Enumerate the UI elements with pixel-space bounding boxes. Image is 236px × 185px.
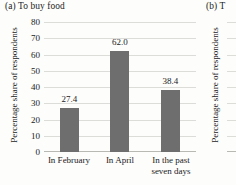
panel-b-x-axis-baseline [227, 151, 236, 152]
y-tick-label-70: 70 [31, 34, 40, 43]
chart-panel-b: (b) T Percentage share of respondents [200, 0, 236, 185]
panel-a-plot-area: 80 70 60 50 40 30 20 10 0 27.4 62.0 3 [44, 22, 196, 152]
bar-in-april[interactable] [110, 51, 129, 152]
bar-value-in-february: 27.4 [61, 94, 77, 104]
y-tick-label-30: 30 [31, 99, 40, 108]
panel-b-gridline-80 [227, 22, 236, 23]
bar-value-in-april: 62.0 [112, 37, 128, 47]
panel-b-gridline-50 [227, 71, 236, 72]
y-tick-label-60: 60 [31, 50, 40, 59]
bar-series: 27.4 62.0 38.4 [44, 22, 196, 152]
x-tick-label-in-april: In April [92, 155, 148, 166]
figure-container: (a) To buy food Percentage share of resp… [0, 0, 236, 185]
x-tick-label-in-february: In February [40, 155, 98, 166]
y-tick-label-80: 80 [31, 18, 40, 27]
panel-a-y-axis-label: Percentage share of respondents [9, 21, 19, 149]
bar-slot-in-the-past-seven-days: 38.4 [145, 22, 196, 152]
chart-panel-a: (a) To buy food Percentage share of resp… [0, 0, 200, 185]
y-tick-label-50: 50 [31, 66, 40, 75]
bar-slot-in-april: 62.0 [95, 22, 146, 152]
panel-a-title: (a) To buy food [5, 1, 65, 11]
panel-b-gridline-10 [227, 136, 236, 137]
panel-b-title: (b) T [206, 1, 225, 11]
bar-in-february[interactable] [60, 108, 79, 153]
y-tick-label-10: 10 [31, 131, 40, 140]
panel-b-gridline-20 [227, 120, 236, 121]
bar-slot-in-february: 27.4 [44, 22, 95, 152]
bar-in-the-past-seven-days[interactable] [161, 90, 180, 152]
y-tick-label-20: 20 [31, 115, 40, 124]
panel-b-plot-area [227, 22, 236, 152]
panel-b-y-axis-label: Percentage share of respondents [210, 21, 220, 149]
y-tick-label-40: 40 [31, 83, 40, 92]
panel-b-gridline-40 [227, 87, 236, 88]
bar-value-in-the-past-seven-days: 38.4 [163, 76, 179, 86]
x-tick-label-in-the-past-seven-days: In the past seven days [141, 155, 201, 176]
panel-b-gridline-70 [227, 38, 236, 39]
panel-b-gridline-60 [227, 55, 236, 56]
panel-b-gridline-30 [227, 103, 236, 104]
